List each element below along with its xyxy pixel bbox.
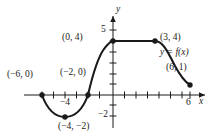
point-label-neg2-0: (−2, 0) xyxy=(60,68,86,78)
y-axis xyxy=(110,16,117,128)
point-label-0-4: (0, 4) xyxy=(62,33,83,43)
x-tick-label-neg4: −4 xyxy=(60,98,70,108)
point-label-6-1: (6, 1) xyxy=(166,63,187,73)
x-tick-label-6: 6 xyxy=(186,98,191,108)
y-tick-label-neg2: −2 xyxy=(98,110,108,120)
point-neg2-0 xyxy=(85,92,90,97)
point-neg4-neg2 xyxy=(62,114,67,119)
point-label-neg6-0: (−6, 0) xyxy=(7,70,33,80)
function-graph-figure: (−6, 0) (−4, −2) (−2, 0) (0, 4) (3, 4) (… xyxy=(0,0,218,139)
y-axis-label: y xyxy=(116,5,120,15)
point-label-neg4-neg2: (−4, −2) xyxy=(58,122,89,132)
function-label: y = f(x) xyxy=(160,48,189,58)
point-neg6-0 xyxy=(39,92,44,97)
point-3-4 xyxy=(152,38,157,43)
x-axis xyxy=(24,92,205,99)
point-label-3-4: (3, 4) xyxy=(160,33,181,43)
y-tick-label-5: 5 xyxy=(101,25,106,35)
x-axis-label: x xyxy=(199,97,203,107)
point-0-4 xyxy=(110,38,115,43)
point-6-1 xyxy=(187,82,192,87)
